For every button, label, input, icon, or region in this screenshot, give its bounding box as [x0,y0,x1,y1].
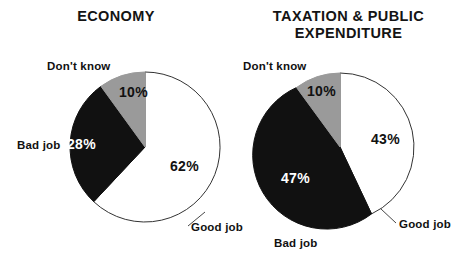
taxation-label-dont-know: Don't know [243,60,307,72]
economy-value-bad-job: 28% [67,136,96,152]
taxation-value-good-job: 43% [371,131,400,147]
taxation-label-bad-job: Bad job [274,237,318,249]
chart-title-taxation-line1: TAXATION & PUBLIC [232,8,465,25]
taxation-value-bad-job: 47% [281,170,310,186]
economy-label-bad-job: Bad job [17,139,61,151]
pie-chart-figure: ECONOMY Don't know Bad job Good job 10% … [0,0,465,260]
economy-value-good-job: 62% [170,158,199,174]
chart-title-economy: ECONOMY [0,8,232,25]
taxation-value-dont-know: 10% [307,83,336,99]
chart-title-taxation: TAXATION & PUBLIC EXPENDITURE [232,8,465,41]
chart-title-taxation-line2: EXPENDITURE [232,25,465,42]
economy-label-dont-know: Don't know [47,60,111,72]
economy-value-dont-know: 10% [119,84,148,100]
taxation-label-good-job: Good job [399,218,451,230]
